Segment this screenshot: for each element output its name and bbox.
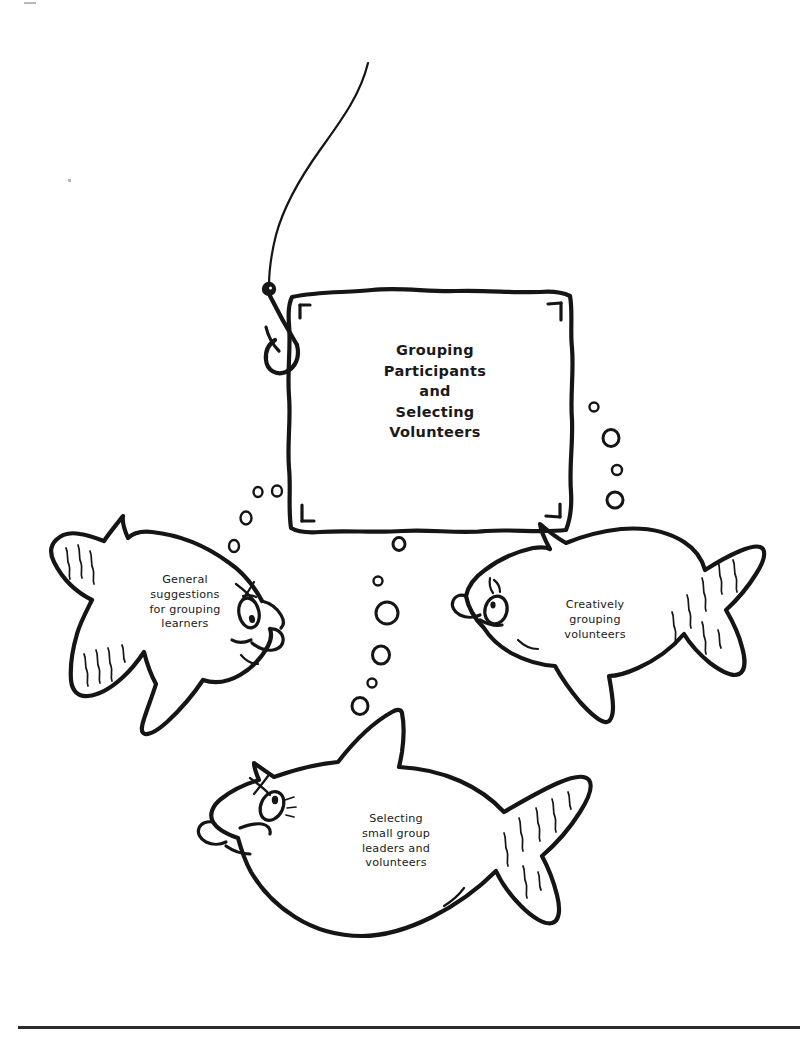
bubble (607, 492, 623, 508)
bubble (373, 646, 390, 664)
fish-eyelashes (285, 797, 296, 817)
illustration-scene (0, 0, 810, 1039)
bubble (229, 540, 239, 552)
bubble (241, 512, 252, 525)
scan-speck (24, 2, 36, 4)
bubble (254, 487, 263, 497)
bubble (272, 486, 282, 497)
scan-speck (68, 179, 71, 182)
fishing-hook (266, 296, 298, 373)
fish-label-selecting-leaders: Selecting small group leaders and volunt… (335, 812, 457, 871)
fish-tail-marks (66, 545, 125, 686)
bubble (368, 679, 377, 688)
sign-corner-bottom-left (302, 505, 314, 521)
sign-corner-bottom-right (546, 504, 560, 517)
bubble (590, 403, 599, 412)
fish-pupil (272, 796, 278, 804)
bubble (374, 577, 383, 586)
fish-label-general-suggestions: General suggestions for grouping learner… (123, 573, 247, 632)
fish-label-creatively-grouping: Creatively grouping volunteers (535, 598, 655, 642)
page-canvas: Grouping Participants and Selecting Volu… (0, 0, 810, 1039)
fishing-line (269, 63, 368, 286)
sign-corner-top-left (300, 305, 310, 318)
bubble (376, 602, 398, 624)
bubble (603, 430, 619, 447)
fish-pupil (248, 614, 256, 623)
fish-eye (256, 788, 289, 825)
bubble (352, 698, 368, 715)
hook-knot-weight (262, 282, 276, 296)
sign-corner-top-right (548, 303, 561, 320)
bubble (393, 538, 405, 551)
page-bottom-rule (18, 1026, 800, 1029)
sign-title: Grouping Participants and Selecting Volu… (350, 340, 520, 443)
bubble (612, 465, 622, 475)
fish-pupil (490, 602, 495, 609)
